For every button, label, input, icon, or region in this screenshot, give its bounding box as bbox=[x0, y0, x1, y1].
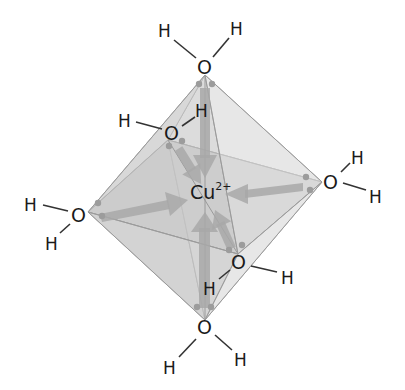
hydrogen-label: H bbox=[351, 148, 364, 168]
oxygen-label: O bbox=[164, 122, 179, 144]
lone-pair-dot bbox=[196, 81, 202, 87]
hydrogen-label: H bbox=[230, 19, 243, 39]
oxygen-label: O bbox=[197, 316, 212, 338]
oxygen-label: O bbox=[231, 251, 246, 273]
hydrogen-label: H bbox=[24, 195, 37, 215]
atoms: H H O H H O H H O H H O H H O H H O Cu2+ bbox=[24, 19, 382, 378]
hydrogen-label: H bbox=[281, 268, 294, 288]
lone-pair-dot bbox=[95, 200, 101, 206]
hydrogen-label: H bbox=[369, 187, 382, 207]
octahedral-complex-diagram: H H O H H O H H O H H O H H O H H O Cu2+ bbox=[0, 0, 405, 390]
hydrogen-label: H bbox=[203, 279, 216, 299]
lone-pair-dot bbox=[194, 304, 200, 310]
hydrogen-label: H bbox=[234, 350, 247, 370]
lone-pair-dot bbox=[99, 213, 105, 219]
hydrogen-label: H bbox=[158, 21, 171, 41]
oxygen-label: O bbox=[323, 171, 338, 193]
oxygen-label: O bbox=[71, 204, 86, 226]
copper-symbol: Cu bbox=[190, 181, 215, 203]
lone-pair-dot bbox=[209, 81, 215, 87]
oxygen-label: O bbox=[197, 56, 212, 78]
hydrogen-label: H bbox=[163, 358, 176, 378]
lone-pair-dot bbox=[179, 138, 185, 144]
hydrogen-label: H bbox=[195, 101, 208, 121]
lone-pair-dot bbox=[307, 187, 313, 193]
lone-pair-dot bbox=[303, 174, 309, 180]
hydrogen-label: H bbox=[45, 234, 58, 254]
copper-charge: 2+ bbox=[215, 180, 231, 193]
hydrogen-label: H bbox=[118, 111, 131, 131]
lone-pair-dot bbox=[239, 242, 245, 248]
lone-pair-dot bbox=[208, 304, 214, 310]
